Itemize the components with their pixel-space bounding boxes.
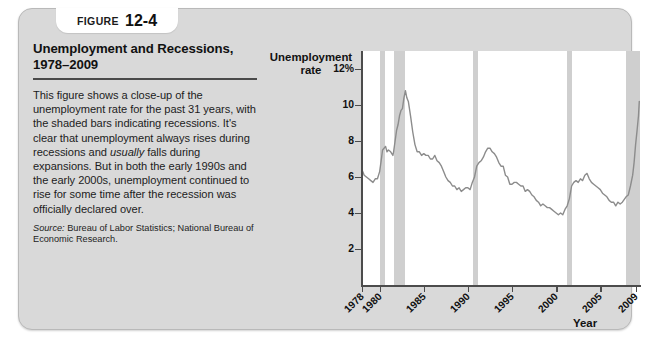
- y-tick-label: 6: [308, 171, 354, 182]
- y-tick-label: 4: [308, 207, 354, 218]
- x-axis-line: [361, 285, 641, 287]
- y-tick-label: 8: [308, 135, 354, 146]
- unemployment-line: [362, 51, 640, 285]
- figure-source: Source: Bureau of Labor Statistics; Nati…: [33, 223, 261, 245]
- x-tick-mark: [362, 286, 363, 292]
- figure-title: Unemployment and Recessions, 1978–2009: [33, 41, 261, 72]
- caption-emphasis: usually: [110, 146, 144, 158]
- figure-card: Figure 12-4 Unemployment and Recessions,…: [18, 8, 632, 330]
- x-tick-mark: [380, 286, 381, 292]
- y-tick-label: 2: [308, 243, 354, 254]
- x-tick-label: 2005: [580, 291, 604, 315]
- figure-number-badge: Figure 12-4: [56, 8, 178, 33]
- y-tick-mark: [355, 213, 363, 214]
- y-tick-mark: [355, 105, 363, 106]
- x-tick-label: 1980: [360, 291, 384, 315]
- figure-label-word: Figure: [77, 15, 119, 27]
- y-tick-label: 10: [308, 99, 354, 110]
- x-tick-mark: [512, 286, 513, 292]
- y-tick-mark: [355, 177, 363, 178]
- chart: Unemployment rate 12%108642 197819801985…: [243, 29, 633, 329]
- x-tick-mark: [556, 286, 557, 292]
- y-tick-mark: [355, 141, 363, 142]
- y-axis-line: [361, 51, 363, 287]
- x-tick-label: 2009: [616, 291, 640, 315]
- x-tick-mark: [468, 286, 469, 292]
- figure-text-column: Unemployment and Recessions, 1978–2009 T…: [33, 41, 261, 254]
- x-tick-mark: [424, 286, 425, 292]
- x-tick-label: 2000: [536, 291, 560, 315]
- x-tick-mark: [600, 286, 601, 292]
- x-tick-label: 1995: [492, 291, 516, 315]
- figure-number: 12-4: [125, 12, 157, 30]
- figure-caption: This figure shows a close-up of the unem…: [33, 88, 261, 216]
- x-axis-title: Year: [573, 317, 597, 329]
- y-tick-mark: [355, 69, 363, 70]
- source-text: Bureau of Labor Statistics; National Bur…: [33, 223, 254, 244]
- title-divider: [33, 78, 257, 80]
- source-label: Source:: [33, 223, 65, 233]
- x-tick-label: 1985: [404, 291, 428, 315]
- plot-area: [362, 51, 640, 285]
- x-tick-label: 1990: [448, 291, 472, 315]
- y-tick-label: 12%: [308, 63, 354, 74]
- y-tick-mark: [355, 249, 363, 250]
- x-tick-mark: [636, 286, 637, 292]
